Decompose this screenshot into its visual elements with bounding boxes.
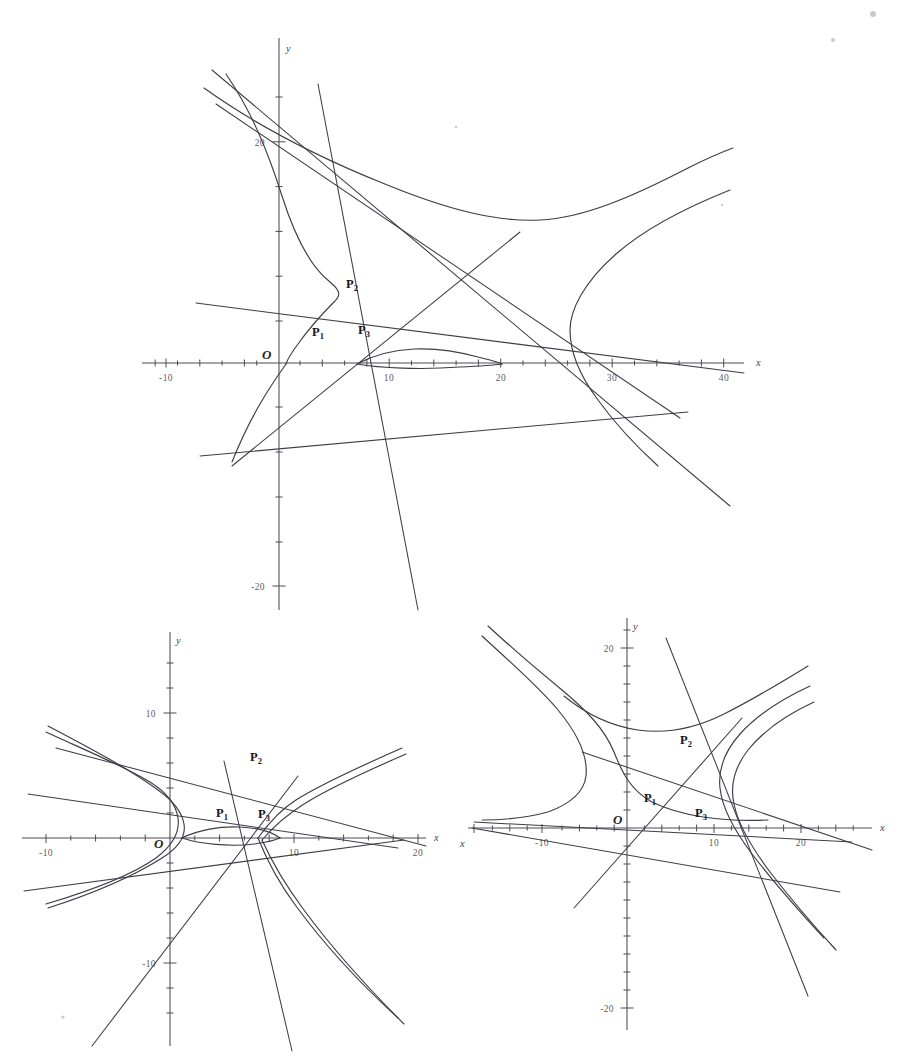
scan-speck: [831, 38, 835, 42]
figure-root: -10 10 20 30 40 x 20 -: [0, 0, 904, 1057]
scan-speck: [721, 204, 723, 206]
scan-speck: [455, 126, 458, 129]
scan-speck: [870, 11, 876, 17]
scan-speck: [61, 1015, 64, 1018]
scan-artifacts: [0, 0, 904, 1057]
